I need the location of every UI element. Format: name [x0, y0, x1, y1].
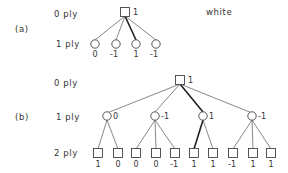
edge: [155, 120, 175, 149]
tree-a-root-value: 1: [133, 8, 138, 17]
tree-b-leaf-square: [190, 149, 199, 158]
tree-b-leaf-value: -1: [228, 160, 236, 169]
tree-b-ply1-value: -1: [161, 112, 169, 121]
tree-b-leaf-square: [249, 149, 258, 158]
edge: [155, 84, 180, 112]
tree-a-child-circle: [132, 40, 140, 48]
tree-b-leaf-value: 1: [191, 160, 196, 169]
tree-b-ply1-circle: [248, 112, 256, 120]
b-ply1-label: 1 ply: [56, 112, 80, 122]
tree-a-child-circle: [152, 40, 160, 48]
tree-b-leaf-value: 0: [115, 160, 120, 169]
tree-b-ply1-value: 0: [113, 112, 118, 121]
tree-b-leaf-square: [229, 149, 238, 158]
best-edge: [194, 120, 203, 149]
tree-a-child-value: 1: [133, 50, 138, 59]
edge: [180, 84, 252, 113]
edge: [136, 120, 155, 149]
tree-b-ply1-circle: [199, 112, 207, 120]
tree-b-leaves: [94, 149, 276, 158]
tree-b-root-value: 1: [188, 76, 193, 85]
edge: [107, 84, 180, 113]
tree-b-ply1-circle: [103, 112, 111, 120]
tree-a-child-value: -1: [110, 50, 118, 59]
tree-b-leaf-square: [132, 149, 141, 158]
edge: [107, 120, 118, 149]
tree-b-leaf-square: [267, 149, 276, 158]
tree-b-root-square: [176, 76, 185, 85]
tree-b-leaf-value: -1: [170, 160, 178, 169]
tree-b-leaf-square: [94, 149, 103, 158]
tree-b-leaf-square: [209, 149, 218, 158]
tree-b-edges: [98, 84, 271, 149]
edge: [233, 120, 252, 149]
tree-a-child-value: -1: [150, 50, 158, 59]
tree-b-ply1-value: 1: [209, 112, 214, 121]
tree-b-ply1-circle: [151, 112, 159, 120]
edge: [252, 120, 271, 149]
tree-a-child-circle: [91, 40, 99, 48]
player-label: white: [206, 7, 232, 17]
game-tree-diagram: 0 ply (a) 1 ply white 1 0 -1 1 -1 0 ply …: [0, 0, 288, 173]
tree-b-leaf-square: [114, 149, 123, 158]
best-edge: [180, 84, 203, 112]
tree-b-leaf-value: 1: [95, 160, 100, 169]
tree-b-leaf-square: [152, 149, 161, 158]
a-ply1-label: 1 ply: [56, 39, 80, 49]
tree-b-leaf-square: [171, 149, 180, 158]
edge: [203, 120, 213, 149]
a-tag-label: (a): [15, 24, 29, 34]
tree-a-child-circle: [112, 40, 120, 48]
b-tag-label: (b): [15, 112, 29, 122]
b-ply0-label: 0 ply: [54, 78, 78, 88]
tree-b-leaf-value: 1: [250, 160, 255, 169]
b-ply2-label: 2 ply: [54, 148, 78, 158]
tree-b-leaf-value: 0: [133, 160, 138, 169]
a-ply0-label: 0 ply: [54, 9, 78, 19]
tree-b-leaf-value: 1: [268, 160, 273, 169]
tree-a-edges: [95, 16, 156, 40]
edge: [155, 120, 156, 149]
tree-b-leaf-value: 1: [210, 160, 215, 169]
edge: [98, 120, 107, 149]
tree-a-child-value: 0: [92, 50, 97, 59]
best-edge: [125, 16, 136, 40]
tree-b-leaf-value: 0: [153, 160, 158, 169]
tree-a-root-square: [121, 8, 130, 17]
edge: [252, 120, 253, 149]
tree-b-ply1-value: -1: [258, 112, 266, 121]
